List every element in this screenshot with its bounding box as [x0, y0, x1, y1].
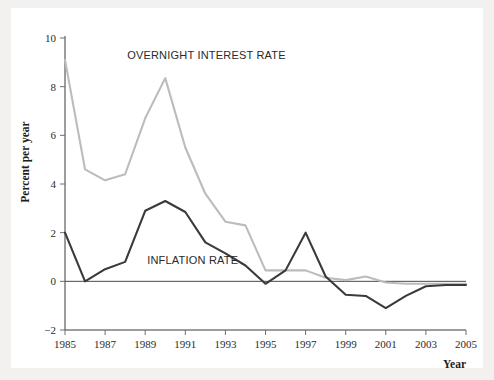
x-axis-tick-label: 1995 [255, 338, 278, 350]
series-line-overnight-interest-rate [65, 60, 466, 284]
y-axis-tick-label: 0 [51, 275, 57, 287]
x-axis-tick-label: 2005 [455, 338, 478, 350]
label-layer: OVERNIGHT INTEREST RATEINFLATION RATEPer… [19, 49, 466, 368]
y-axis-tick-label: 2 [51, 227, 57, 239]
x-axis-tick-label: 2001 [375, 338, 397, 350]
x-axis-tick-label: 1987 [94, 338, 117, 350]
y-axis-tick-label: 10 [45, 32, 57, 44]
y-axis-tick-label: 6 [51, 129, 57, 141]
axis-layer: −202468101985198719891991199319951997199… [44, 32, 477, 350]
y-axis-tick-label: 4 [51, 178, 57, 190]
y-axis-title: Percent per year [19, 121, 32, 202]
series-label-inflation-rate: INFLATION RATE [147, 254, 238, 266]
x-axis-tick-label: 2003 [415, 338, 438, 350]
x-axis-tick-label: 1997 [295, 338, 318, 350]
page-background: −202468101985198719891991199319951997199… [0, 0, 494, 380]
series-layer [65, 60, 466, 308]
y-axis-tick-label: 8 [51, 81, 57, 93]
y-axis-tick-label: −2 [44, 324, 56, 336]
x-axis-tick-label: 1993 [214, 338, 237, 350]
x-axis-tick-label: 1991 [174, 338, 196, 350]
x-axis-tick-label: 1985 [54, 338, 77, 350]
x-axis-tick-label: 1999 [335, 338, 358, 350]
series-line-inflation-rate [65, 201, 466, 308]
x-axis-tick-label: 1989 [134, 338, 157, 350]
x-axis-title: Year [443, 358, 466, 368]
chart-figure: −202468101985198719891991199319951997199… [11, 8, 483, 368]
chart-plot-area: −202468101985198719891991199319951997199… [11, 8, 483, 368]
series-label-overnight-interest-rate: OVERNIGHT INTEREST RATE [127, 49, 286, 61]
